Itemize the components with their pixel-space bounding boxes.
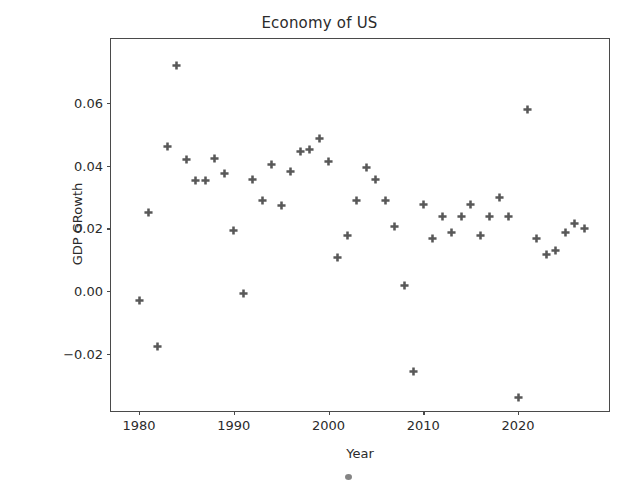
scatter-point xyxy=(504,212,513,221)
x-tick-mark xyxy=(139,411,140,415)
scatter-point xyxy=(570,219,579,228)
scatter-point xyxy=(210,154,219,163)
scatter-point xyxy=(447,228,456,237)
scatter-point xyxy=(409,367,418,376)
y-tick-mark xyxy=(107,166,111,167)
y-tick-mark xyxy=(107,291,111,292)
scatter-point xyxy=(182,155,191,164)
scatter-point xyxy=(248,175,257,184)
scatter-point xyxy=(371,175,380,184)
scatter-point xyxy=(476,231,485,240)
scatter-point xyxy=(144,208,153,217)
x-tick-mark xyxy=(234,411,235,415)
y-tick-mark xyxy=(107,354,111,355)
scatter-point xyxy=(258,196,267,205)
x-tick-label: 2020 xyxy=(501,418,534,433)
scatter-point xyxy=(551,246,560,255)
plot-area: −0.020.000.020.040.06 198019902000201020… xyxy=(110,38,610,412)
scatter-point xyxy=(419,200,428,209)
y-tick-label: 0.04 xyxy=(74,158,103,173)
x-tick-label: 2000 xyxy=(312,418,345,433)
scatter-point xyxy=(457,212,466,221)
scatter-point xyxy=(438,212,447,221)
scatter-point xyxy=(542,250,551,259)
x-tick-mark xyxy=(518,411,519,415)
y-tick-label: −0.02 xyxy=(63,346,103,361)
scatter-point xyxy=(135,296,144,305)
scatter-point xyxy=(324,157,333,166)
scatter-point xyxy=(163,142,172,151)
stray-dot-artifact xyxy=(345,474,352,480)
scatter-point xyxy=(343,231,352,240)
scatter-point xyxy=(400,281,409,290)
scatter-point xyxy=(315,134,324,143)
x-tick-label: 1990 xyxy=(217,418,250,433)
scatter-point xyxy=(381,196,390,205)
x-tick-mark xyxy=(423,411,424,415)
scatter-point xyxy=(514,393,523,402)
chart-title: Economy of US xyxy=(0,14,639,32)
scatter-point xyxy=(362,163,371,172)
scatter-point xyxy=(305,145,314,154)
y-tick-mark xyxy=(107,103,111,104)
scatter-point xyxy=(352,196,361,205)
scatter-point xyxy=(267,160,276,169)
y-tick-label: 0.06 xyxy=(74,96,103,111)
scatter-point xyxy=(428,234,437,243)
y-tick-label: 0.00 xyxy=(74,284,103,299)
scatter-point xyxy=(296,147,305,156)
scatter-point xyxy=(201,176,210,185)
scatter-point xyxy=(191,176,200,185)
scatter-point xyxy=(277,201,286,210)
y-tick-mark xyxy=(107,228,111,229)
scatter-point xyxy=(286,167,295,176)
y-axis-label: GDP GRowth xyxy=(70,183,85,266)
scatter-point xyxy=(333,253,342,262)
scatter-point xyxy=(561,228,570,237)
scatter-point xyxy=(523,105,532,114)
scatter-point xyxy=(495,193,504,202)
x-tick-mark xyxy=(329,411,330,415)
scatter-point xyxy=(532,234,541,243)
scatter-point xyxy=(390,222,399,231)
scatter-point xyxy=(239,289,248,298)
x-tick-label: 2010 xyxy=(407,418,440,433)
scatter-point xyxy=(172,61,181,70)
x-axis-label: Year xyxy=(110,446,610,461)
chart-figure: Economy of US −0.020.000.020.040.06 1980… xyxy=(0,0,639,493)
scatter-point xyxy=(220,169,229,178)
scatter-point xyxy=(153,342,162,351)
x-tick-label: 1980 xyxy=(122,418,155,433)
scatter-point xyxy=(229,226,238,235)
scatter-point xyxy=(466,200,475,209)
scatter-point xyxy=(580,224,589,233)
scatter-point xyxy=(485,212,494,221)
